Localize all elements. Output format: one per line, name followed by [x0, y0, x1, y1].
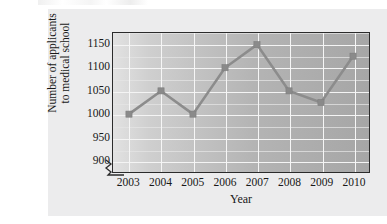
series-layer	[113, 33, 369, 172]
plot-area	[112, 32, 370, 173]
data-point-2010	[350, 53, 356, 59]
y-tick-label-950: 950	[64, 132, 110, 143]
data-point-2006	[222, 65, 228, 71]
data-point-2008	[286, 88, 292, 94]
data-point-2005	[190, 111, 196, 117]
series-markers	[126, 42, 356, 118]
y-axis-title-line-2: to medical school	[59, 0, 72, 128]
y-axis-title: Number of applicants to medical school	[46, 0, 72, 128]
x-axis-title: Year	[112, 192, 370, 207]
x-tick-label-2010: 2010	[334, 176, 374, 188]
data-point-2004	[158, 88, 164, 94]
axis-break-icon	[104, 158, 126, 178]
data-point-2007	[254, 42, 260, 48]
data-point-2009	[318, 99, 324, 105]
y-axis-title-line-1: Number of applicants	[46, 0, 59, 128]
data-point-2003	[126, 111, 132, 117]
